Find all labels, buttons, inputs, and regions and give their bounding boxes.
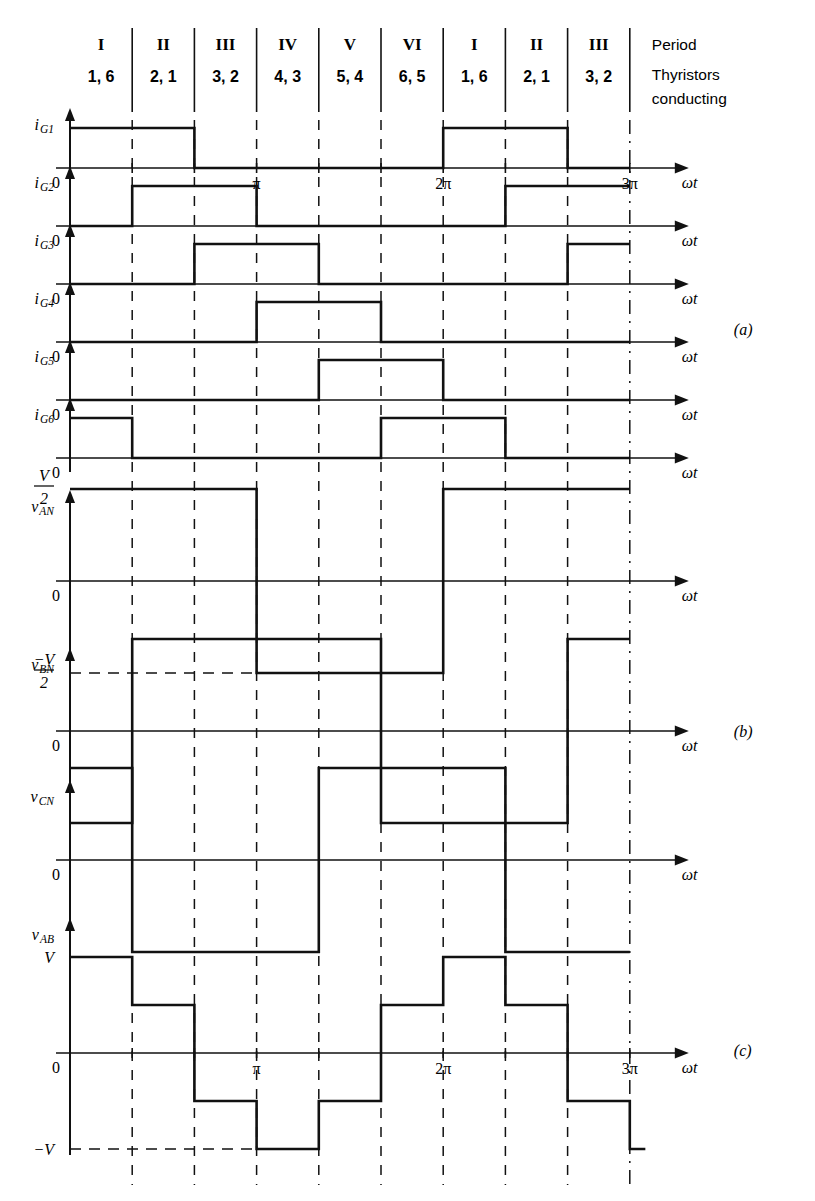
x-tick-label: π [253,175,261,192]
axis-arrowhead [675,279,689,290]
zero-label: 0 [52,866,60,883]
period-roman-label: IV [278,35,298,54]
zero-label: 0 [52,737,60,754]
period-roman-label: III [589,35,609,54]
period-roman-label: II [530,35,544,54]
trace-y-label: vCN [31,788,56,807]
waveform-trace-i_G5 [70,360,630,400]
trace-y-label: iG1 [34,116,54,135]
omega-t-label: ωt [682,290,698,307]
zero-label: 0 [52,1059,60,1076]
axis-arrowhead [65,918,75,931]
omega-t-label: ωt [682,464,698,481]
x-tick-label: 3π [622,1060,638,1077]
period-roman-label: II [157,35,171,54]
axis-arrowhead [675,453,689,464]
axis-arrowhead [675,163,689,174]
thyristor-pair-label: 6, 5 [399,68,426,85]
level-v-label: V [44,949,56,966]
level-neg-v-label: −V [33,1141,56,1158]
panel-label: (c) [734,1042,752,1060]
thyristor-pair-label: 1, 6 [461,68,488,85]
period-roman-label: VI [403,35,422,54]
axis-arrowhead [675,1048,689,1059]
period-roman-label: I [471,35,478,54]
period-roman-label: V [344,35,357,54]
omega-t-label: ωt [682,174,698,191]
axis-arrowhead [675,855,689,866]
level-neg-half-v-label: −V [34,651,57,668]
thyristor-pair-label: 1, 6 [88,68,115,85]
waveform-trace-i_G1 [70,128,630,168]
x-tick-label: 3π [622,175,638,192]
x-tick-label: π [253,1060,261,1077]
axis-arrowhead [675,576,689,587]
waveform-trace-i_G2 [70,186,630,226]
x-tick-label: 2π [435,1060,451,1077]
period-gridlines [70,120,630,1185]
axis-arrowhead [675,221,689,232]
axis-arrowhead [65,648,75,661]
header-legend-line: Thyristors [652,66,720,83]
thyristor-pair-label: 5, 4 [337,68,364,85]
level-neg-half-v-label: 2 [40,674,48,691]
thyristor-pair-label: 4, 3 [274,68,301,85]
figure-page: I1, 6II2, 1III3, 2IV4, 3V5, 4VI6, 5I1, 6… [0,0,815,1201]
diagram-text: I1, 6II2, 1III3, 2IV4, 3V5, 4VI6, 5I1, 6… [31,35,753,1158]
header-legend-line: Period [652,36,697,53]
panel-label: (b) [734,723,753,741]
omega-t-label: ωt [682,1059,698,1076]
waveform-traces [70,128,645,1149]
waveform-trace-i_G4 [70,302,630,342]
thyristor-pair-label: 2, 1 [523,68,550,85]
zero-label: 0 [52,464,60,481]
x-tick-label: 2π [435,175,451,192]
omega-t-label: ωt [682,232,698,249]
omega-t-label: ωt [682,348,698,365]
thyristor-pair-label: 3, 2 [212,68,239,85]
waveform-axes [56,108,689,1155]
level-half-v-label: V [39,467,51,484]
omega-t-label: ωt [682,737,698,754]
waveform-trace-i_G3 [70,244,630,284]
panel-label: (a) [734,321,753,339]
axis-arrowhead [65,108,75,121]
waveform-diagram: I1, 6II2, 1III3, 2IV4, 3V5, 4VI6, 5I1, 6… [0,0,815,1201]
omega-t-label: ωt [682,406,698,423]
omega-t-label: ωt [682,587,698,604]
thyristor-pair-label: 3, 2 [585,68,612,85]
axis-arrowhead [675,726,689,737]
zero-label: 0 [52,587,60,604]
waveform-trace-i_G6 [70,418,630,458]
level-half-v-label: 2 [40,490,48,507]
thyristor-pair-label: 2, 1 [150,68,177,85]
omega-t-label: ωt [682,866,698,883]
axis-arrowhead [65,490,75,503]
period-roman-label: I [98,35,105,54]
axis-arrowhead [675,395,689,406]
axis-arrowhead [675,337,689,348]
header-separators [132,28,630,112]
trace-y-label: vAB [32,926,54,945]
axis-arrowhead [65,780,75,793]
period-roman-label: III [216,35,236,54]
header-legend-line: conducting [652,90,727,107]
